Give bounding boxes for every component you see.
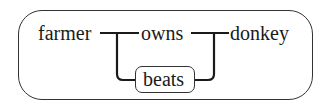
farmer-beats-line [117, 33, 136, 80]
node-farmer: farmer [38, 23, 91, 43]
beats-donkey-line [194, 33, 214, 80]
node-donkey: donkey [230, 23, 289, 43]
node-beats: beats [143, 69, 184, 89]
node-owns: owns [141, 23, 183, 43]
